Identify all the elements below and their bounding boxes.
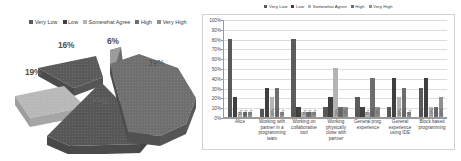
pie-value-label-high: 16% <box>58 40 74 50</box>
ytick-label-80: 80% <box>212 37 221 42</box>
bar-value-close-low: 20% <box>328 109 333 116</box>
bar-legend-label-somewhat-agree: Somewhat Agree <box>313 4 347 9</box>
bar-partner-very-low: 8% <box>260 109 264 117</box>
bar-value-close-very-low: 10% <box>323 109 328 116</box>
ytick-label-100: 100% <box>209 18 221 23</box>
legend-swatch-very-low <box>29 20 33 24</box>
ytick-label-40: 40% <box>212 76 221 81</box>
legend-label-high: High <box>141 19 152 25</box>
bar-chart-legend: Very Low Low Somewhat Agree High Very Hi… <box>202 4 455 9</box>
legend-label-very-low: Very Low <box>35 19 58 25</box>
ytick-label-90: 90% <box>212 27 221 32</box>
bar-group-general-experience-ide: 10% 40% 20% 30% 5% <box>383 20 415 117</box>
bar-value-collab-very-high: 5% <box>311 110 316 115</box>
bar-block-very-high: 20% <box>439 97 443 117</box>
bar-group-collaborative-tool: 80% 10% 5% 5% 5% <box>288 20 320 117</box>
bar-value-genprog-very-high: 10% <box>375 109 380 116</box>
pie-value-label-very-low: 39% <box>148 58 164 68</box>
bar-alice-somewhat-agree: 5% <box>238 112 242 117</box>
bar-legend-swatch-somewhat-agree <box>308 5 311 8</box>
pie-chart-legend: Very Low Low Somewhat Agree High Very Hi… <box>8 19 208 25</box>
xlabel-working-with-partner: Working with partner in a programming te… <box>256 119 288 141</box>
bar-close-very-high: 10% <box>343 107 347 117</box>
bar-alice-very-high: 5% <box>248 112 252 117</box>
pie-chart-plot: 39% 21% 19% 16% 6% <box>0 28 215 154</box>
bar-legend-swatch-very-low <box>264 5 267 8</box>
bar-group-working-with-partner: 8% 30% 20% 30% 5% <box>256 20 288 117</box>
legend-swatch-very-high <box>157 20 161 24</box>
bar-legend-entry-very-low: Very Low <box>264 4 287 9</box>
bar-partner-very-high: 5% <box>280 112 284 117</box>
legend-entry-very-low: Very Low <box>29 19 57 25</box>
ytick-label-50: 50% <box>212 67 221 72</box>
bar-ide-very-high: 5% <box>407 112 411 117</box>
bar-group-block-based-programming: 30% 40% 10% 10% 20% <box>415 20 447 117</box>
ytick-label-0: 0% <box>214 116 221 121</box>
bar-chart-x-axis-labels: Alice Working with partner in a programm… <box>224 119 448 141</box>
ytick-label-10: 10% <box>212 106 221 111</box>
bar-value-alice-very-high: 5% <box>247 110 252 115</box>
legend-label-very-high: Very High <box>163 19 187 25</box>
bar-legend-label-very-low: Very Low <box>269 4 287 9</box>
dual-chart-figure: Very Low Low Somewhat Agree High Very Hi… <box>0 0 461 161</box>
ytick-mark-0 <box>221 118 223 119</box>
legend-label-low: Low <box>68 19 78 25</box>
bar-collab-somewhat-agree: 5% <box>301 112 305 117</box>
bar-legend-swatch-high <box>351 5 354 8</box>
bar-legend-entry-somewhat-agree: Somewhat Agree <box>308 4 347 9</box>
ytick-label-60: 60% <box>212 57 221 62</box>
pie-value-label-somewhat-agree: 19% <box>25 67 41 77</box>
xlabel-physically-close: Working physically close with partner <box>320 119 352 141</box>
bar-collab-high: 5% <box>306 112 310 117</box>
legend-entry-low: Low <box>63 19 79 25</box>
bar-partner-low: 30% <box>265 88 269 117</box>
x-axis-line <box>223 117 447 118</box>
pie-value-label-low: 21% <box>93 96 109 106</box>
bar-genprog-very-high: 10% <box>375 107 379 117</box>
xlabel-collaborative-tool: Working on collaborative tool <box>288 119 320 141</box>
pie-chart-graphic <box>0 28 215 154</box>
bar-legend-swatch-very-high <box>369 5 372 8</box>
bar-group-alice: 80% 20% 5% 5% 5% <box>224 20 256 117</box>
legend-entry-somewhat-agree: Somewhat Agree <box>83 19 130 25</box>
bar-value-collab-high: 5% <box>306 110 311 115</box>
bar-value-collab-low: 10% <box>296 109 301 116</box>
bar-legend-entry-low: Low <box>291 4 304 9</box>
bar-value-partner-very-high: 5% <box>279 110 284 115</box>
bar-chart-panel: Very Low Low Somewhat Agree High Very Hi… <box>196 0 461 161</box>
bar-value-ide-very-high: 5% <box>407 110 412 115</box>
ytick-label-20: 20% <box>212 96 221 101</box>
legend-entry-very-high: Very High <box>157 19 186 25</box>
bar-legend-label-low: Low <box>296 4 304 9</box>
ytick-label-70: 70% <box>212 47 221 52</box>
bar-value-collab-somewhat-agree: 5% <box>301 110 306 115</box>
pie-chart-panel: Very Low Low Somewhat Agree High Very Hi… <box>0 0 215 161</box>
pie-value-label-very-high: 6% <box>107 36 119 46</box>
bar-group-physically-close: 10% 20% 50% 10% 10% <box>320 20 352 117</box>
bar-legend-entry-high: High <box>351 4 365 9</box>
legend-entry-high: High <box>135 19 152 25</box>
bar-partner-high: 30% <box>275 88 279 117</box>
bar-legend-label-very-high: Very High <box>373 4 393 9</box>
bar-alice-high: 5% <box>243 112 247 117</box>
bar-chart-plot-area: 100% 90% 80% 70% 60% 50% <box>223 20 447 118</box>
legend-label-somewhat-agree: Somewhat Agree <box>89 19 131 25</box>
bar-groups: 80% 20% 5% 5% 5% <box>224 20 447 117</box>
bar-collab-very-high: 5% <box>311 112 315 117</box>
bar-alice-very-low: 80% <box>228 39 232 117</box>
xlabel-alice: Alice <box>224 119 256 141</box>
bar-legend-swatch-low <box>291 5 294 8</box>
bar-legend-entry-very-high: Very High <box>369 4 393 9</box>
legend-swatch-high <box>135 20 139 24</box>
bar-group-general-prog-experience: 20% 10% 5% 40% 10% <box>351 20 383 117</box>
legend-swatch-low <box>63 20 67 24</box>
bar-legend-label-high: High <box>355 4 364 9</box>
bar-collab-low: 10% <box>296 107 300 117</box>
ytick-label-30: 30% <box>212 86 221 91</box>
bar-value-close-very-high: 10% <box>343 109 348 116</box>
bar-close-very-low: 10% <box>323 107 327 117</box>
xlabel-block-based-programming: Block based programming <box>416 119 448 141</box>
bar-partner-somewhat-agree: 20% <box>270 97 274 117</box>
bar-value-block-very-high: 20% <box>439 109 444 116</box>
bar-collab-very-low: 80% <box>291 39 295 117</box>
